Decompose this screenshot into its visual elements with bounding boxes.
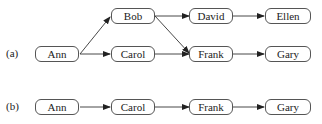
node-b-gary: Gary	[265, 99, 311, 115]
node-carol: Carol	[111, 46, 155, 62]
node-frank: Frank	[189, 46, 233, 62]
node-ann: Ann	[35, 46, 79, 62]
node-b-ann: Ann	[35, 99, 79, 115]
node-ellen: Ellen	[265, 8, 311, 24]
node-b-frank: Frank	[189, 99, 233, 115]
node-bob: Bob	[111, 8, 155, 24]
panel-label-b: (b)	[6, 100, 19, 112]
node-david: David	[189, 8, 233, 24]
node-b-carol: Carol	[111, 99, 155, 115]
edge-ann-bob	[80, 17, 110, 54]
node-gary: Gary	[265, 46, 311, 62]
edge-bob-frank	[155, 16, 189, 53]
panel-label-a: (a)	[6, 47, 18, 59]
